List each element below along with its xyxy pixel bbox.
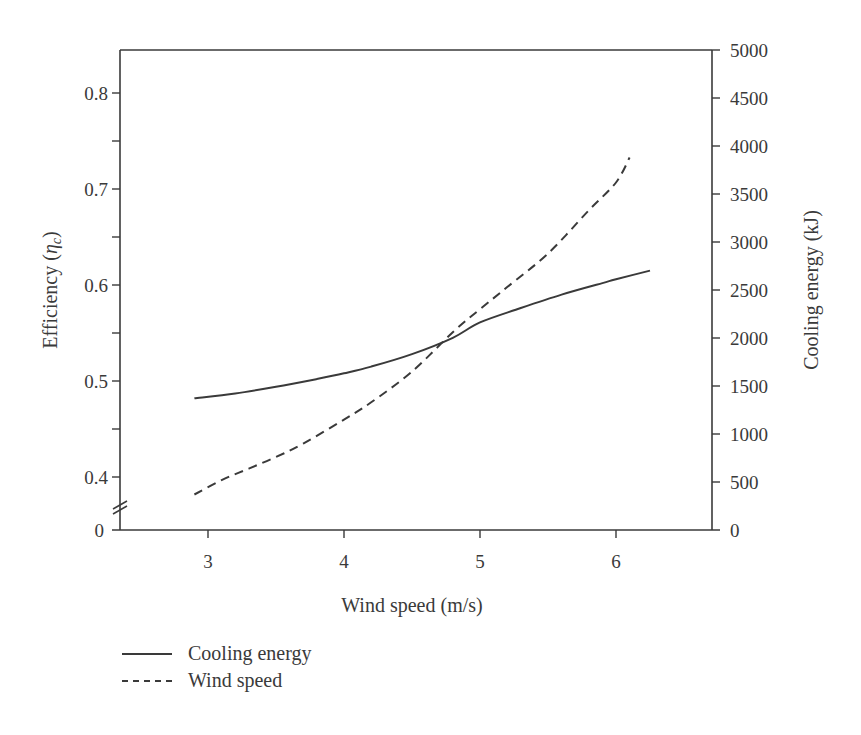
x-axis-ticks [208,530,616,538]
y-right-tick-label: 1500 [730,376,768,397]
legend-label: Wind speed [188,669,282,692]
x-axis-title: Wind speed (m/s) [341,594,482,617]
y-right-tick-label: 3500 [730,184,768,205]
y-left-axis-title: Efficiency (ηc) [39,231,64,348]
y-right-tick-label: 0 [730,520,740,541]
cooling-energy-line [194,271,650,399]
y-right-tick-label: 3000 [730,232,768,253]
x-axis-tick-labels: 3 4 5 6 [203,551,621,572]
x-tick-label: 3 [203,551,213,572]
x-tick-label: 6 [611,551,621,572]
legend-label: Cooling energy [188,642,312,665]
y-right-tick-label: 4500 [730,88,768,109]
plot-frame [112,50,720,530]
solid-line-swatch-icon [122,653,172,655]
y-left-tick-label: 0.7 [84,179,108,200]
y-right-tick-label: 500 [730,472,759,493]
y-left-tick-label: 0.6 [84,275,108,296]
right-axis-tick-labels: 5000 4500 4000 3500 3000 2500 2000 1500 … [730,40,768,541]
left-axis-ticks [112,93,120,477]
y-left-tick-label: 0.4 [84,467,108,488]
y-right-axis-title: Cooling energy (kJ) [800,210,823,370]
x-tick-label: 4 [339,551,349,572]
y-right-tick-label: 1000 [730,424,768,445]
dashed-line-swatch-icon [122,680,172,682]
y-right-tick-label: 5000 [730,40,768,61]
y-left-tick-label: 0.5 [84,371,108,392]
y-right-tick-label: 2000 [730,328,768,349]
y-left-tick-label: 0.8 [84,83,108,104]
legend-item-wind-speed: Wind speed [122,667,312,694]
wind-speed-line [194,158,629,495]
legend: Cooling energy Wind speed [122,640,312,694]
x-tick-label: 5 [475,551,485,572]
y-left-tick-label: 0 [95,520,105,541]
legend-item-cooling-energy: Cooling energy [122,640,312,667]
left-axis-tick-labels: 0.8 0.7 0.6 0.5 0.4 0 [84,83,108,541]
right-axis-ticks [712,50,720,482]
y-right-tick-label: 2500 [730,280,768,301]
chart-canvas: 0.8 0.7 0.6 0.5 0.4 0 5000 4500 4000 350… [0,0,861,735]
y-right-tick-label: 4000 [730,136,768,157]
